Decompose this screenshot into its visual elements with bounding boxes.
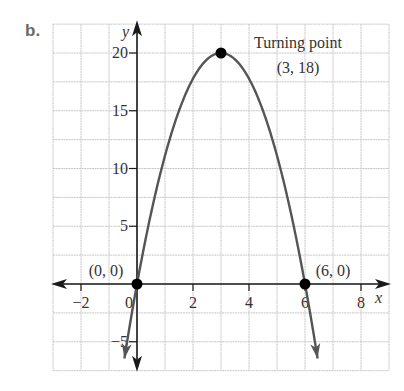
grid-lines	[53, 24, 389, 371]
y-axis-label: y	[120, 23, 130, 41]
turning-point-title: Turning point	[254, 34, 342, 52]
x-intercept-label: (6, 0)	[316, 262, 351, 280]
turning-point-coords: (3, 18)	[277, 59, 320, 77]
x-tick-label: −2	[72, 294, 89, 311]
x-intercept-point	[300, 279, 311, 290]
turning-point	[216, 48, 227, 59]
y-tick-label: 15	[112, 102, 128, 119]
y-tick-label: 5	[120, 217, 128, 234]
chart: xy −202468−55101520 Turning point(3, 18)…	[0, 0, 404, 391]
y-tick-label: 20	[112, 44, 128, 61]
y-tick-label: 10	[112, 160, 128, 177]
x-tick-label: 2	[189, 294, 197, 311]
x-tick-label: 8	[357, 294, 365, 311]
x-tick-label: 4	[245, 294, 253, 311]
origin-label: (0, 0)	[89, 262, 124, 280]
origin-point	[132, 279, 143, 290]
x-axis-label: x	[374, 289, 382, 306]
annotations: Turning point(3, 18)(0, 0)(6, 0)	[89, 34, 351, 280]
